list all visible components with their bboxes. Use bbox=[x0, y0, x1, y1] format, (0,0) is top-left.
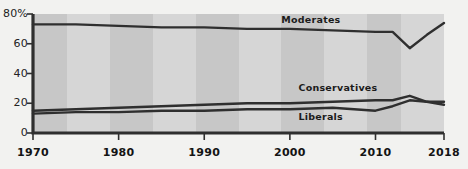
x-axis-tick-label: 1990 bbox=[178, 146, 230, 159]
y-axis-tick-label: 20 bbox=[0, 96, 28, 109]
y-axis-tick-label: 0 bbox=[0, 126, 28, 139]
y-axis-tick-label: 60 bbox=[0, 37, 28, 50]
y-axis-tick-label: 40 bbox=[0, 67, 28, 80]
x-axis-tick-label: 2018 bbox=[418, 146, 468, 159]
x-axis-tick-label: 2000 bbox=[264, 146, 316, 159]
y-axis-tick-label: 80% bbox=[0, 7, 28, 20]
x-axis-tick-label: 2010 bbox=[350, 146, 402, 159]
series-label-conservatives: Conservatives bbox=[298, 82, 377, 93]
x-axis-tick-label: 1970 bbox=[7, 146, 59, 159]
chart-container: 020406080% 197019801990200020102018 Mode… bbox=[0, 0, 468, 169]
series-line-liberals bbox=[33, 100, 444, 113]
series-label-moderates: Moderates bbox=[281, 14, 340, 25]
chart-lines-layer bbox=[0, 0, 468, 169]
series-label-liberals: Liberals bbox=[298, 111, 343, 122]
series-line-moderates bbox=[33, 23, 444, 48]
x-axis-tick-label: 1980 bbox=[93, 146, 145, 159]
